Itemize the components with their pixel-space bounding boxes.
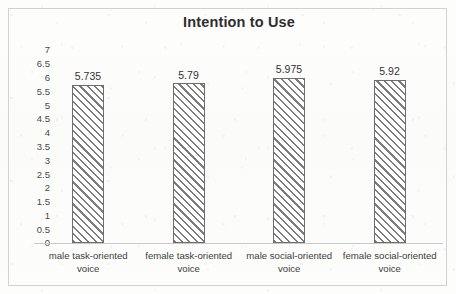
bar-group: 5.92 (340, 46, 440, 243)
category-label-line1: female task-oriented (145, 250, 232, 261)
bar-group: 5.975 (239, 46, 339, 243)
chart-container: Intention to Use 7 6.5 6 5.5 5 4.5 4 3.5… (0, 0, 456, 294)
category-label-line1: female social-oriented (343, 250, 437, 261)
bar-value-label: 5.79 (143, 69, 235, 81)
category-label-line2: voice (77, 263, 99, 274)
x-axis-category-labels: male task-oriented voice female task-ori… (38, 248, 440, 290)
x-axis-line (34, 243, 443, 244)
bar-male-social-oriented-voice[interactable] (273, 78, 305, 243)
bar-value-label: 5.975 (243, 63, 335, 75)
bar-female-social-oriented-voice[interactable] (374, 80, 406, 244)
bar-female-task-oriented-voice[interactable] (173, 83, 205, 243)
category-label-line1: male task-oriented (49, 250, 128, 261)
plot-area: 5.735 5.79 5.975 5.92 (38, 46, 440, 243)
bar-male-task-oriented-voice[interactable] (72, 85, 104, 243)
category-label-male-task-oriented-voice: male task-oriented voice (38, 248, 139, 290)
chart-title: Intention to Use (38, 14, 440, 30)
bar-group: 5.79 (139, 46, 239, 243)
category-label-female-social-oriented-voice: female social-oriented voice (340, 248, 441, 290)
category-label-male-social-oriented-voice: male social-oriented voice (239, 248, 340, 290)
category-label-female-task-oriented-voice: female task-oriented voice (139, 248, 240, 290)
category-label-line2: voice (379, 263, 401, 274)
bar-value-label: 5.735 (42, 70, 134, 82)
category-label-line1: male social-oriented (246, 250, 332, 261)
category-label-line2: voice (178, 263, 200, 274)
category-label-line2: voice (278, 263, 300, 274)
bar-value-label: 5.92 (344, 65, 436, 77)
bar-group: 5.735 (38, 46, 138, 243)
